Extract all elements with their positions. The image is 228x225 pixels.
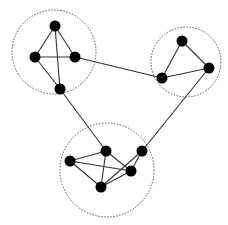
node-C bbox=[70, 52, 81, 63]
node-K bbox=[126, 166, 137, 177]
node-H bbox=[101, 146, 112, 157]
node-G bbox=[204, 63, 215, 74]
node-F bbox=[157, 73, 168, 84]
node-A bbox=[50, 21, 61, 32]
cluster-graph-diagram bbox=[0, 0, 228, 225]
node-B bbox=[30, 52, 41, 63]
node-J bbox=[96, 182, 107, 193]
node-I bbox=[65, 156, 76, 167]
node-E bbox=[177, 36, 188, 47]
node-L bbox=[137, 146, 148, 157]
node-D bbox=[55, 84, 66, 95]
background bbox=[0, 0, 228, 225]
